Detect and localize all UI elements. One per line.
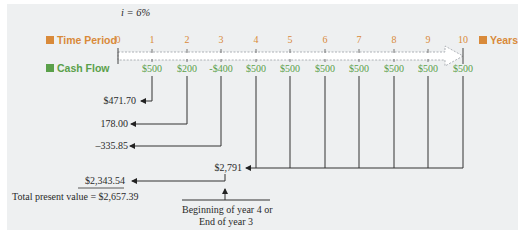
annotation-line-2: End of year 3 [182, 216, 270, 228]
annuity-value-at-year-3: $2,791 [215, 162, 243, 173]
annuity-present-value: $2,343.54 [85, 175, 125, 186]
timeline-arrow [118, 46, 463, 66]
annotation-line-1: Beginning of year 4 or [182, 204, 270, 216]
pv-year-3: –335.85 [96, 140, 129, 151]
pv-year-2: 178.00 [101, 118, 129, 129]
pv-year-1: $471.70 [104, 95, 137, 106]
total-present-value: Total present value = $2,657.39 [12, 191, 139, 202]
annotation-label: Beginning of year 4 or End of year 3 [182, 204, 270, 228]
